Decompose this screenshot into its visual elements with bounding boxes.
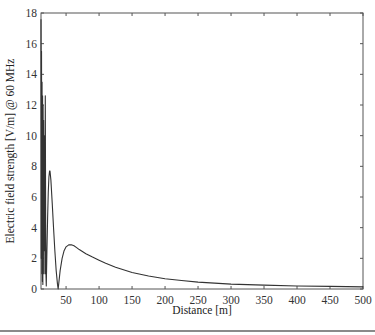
x-tick-label: 450 — [321, 294, 339, 306]
x-axis-label: Distance [m] — [172, 304, 232, 316]
y-tick-label: 6 — [31, 191, 37, 203]
series-line — [41, 19, 363, 289]
y-tick-label: 14 — [26, 68, 38, 80]
y-axis-ticks: 024681012141618 — [26, 7, 364, 295]
y-tick-label: 16 — [26, 38, 38, 50]
y-tick-label: 8 — [31, 160, 37, 172]
y-tick-label: 18 — [26, 7, 38, 19]
x-tick-label: 500 — [354, 294, 372, 306]
x-tick-label: 400 — [288, 294, 306, 306]
y-tick-label: 2 — [31, 252, 37, 264]
bottom-divider — [0, 330, 375, 332]
series-layer — [41, 19, 363, 289]
x-tick-label: 100 — [90, 294, 108, 306]
y-axis-label: Electric field strength [V/m] @ 60 MHz — [4, 59, 17, 244]
y-tick-label: 10 — [26, 130, 38, 142]
y-tick-label: 12 — [26, 99, 38, 111]
x-tick-label: 50 — [60, 294, 72, 306]
plot-frame — [41, 13, 363, 289]
y-tick-label: 4 — [31, 222, 37, 234]
y-tick-label: 0 — [31, 283, 37, 295]
chart: 50100150200250300350400450500 0246810121… — [0, 0, 375, 335]
x-tick-label: 150 — [123, 294, 141, 306]
x-tick-label: 350 — [255, 294, 273, 306]
x-axis-ticks: 50100150200250300350400450500 — [60, 13, 372, 306]
